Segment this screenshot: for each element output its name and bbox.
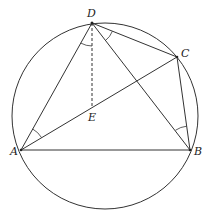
label-D: D [86, 7, 96, 20]
point-A [20, 149, 23, 152]
angle-mark-ADE [81, 43, 92, 46]
point-B [189, 149, 192, 152]
segment-AD [21, 23, 92, 150]
diagram-canvas: A B C D E [0, 0, 205, 211]
label-B: B [193, 145, 202, 158]
angle-mark-DAC [33, 129, 42, 138]
label-E: E [87, 111, 96, 124]
angle-mark-BDC [106, 31, 113, 40]
segment-DB [92, 23, 190, 150]
geometry-diagram: A B C D E [0, 0, 205, 211]
label-C: C [181, 47, 190, 60]
label-A: A [9, 145, 18, 158]
point-D [91, 22, 94, 25]
point-C [176, 56, 179, 59]
angle-mark-CBD [175, 126, 186, 130]
